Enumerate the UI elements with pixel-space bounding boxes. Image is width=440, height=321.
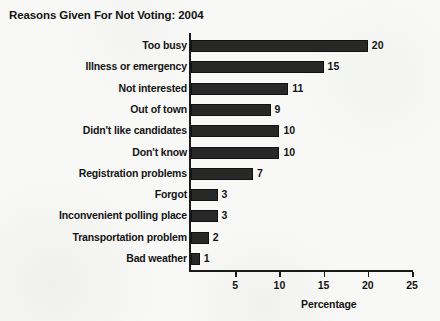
bar xyxy=(191,189,218,201)
bar-value-label: 15 xyxy=(328,60,340,72)
bar-value-label: 3 xyxy=(222,188,228,200)
category-label: Bad weather xyxy=(126,252,187,264)
bar-row: Illness or emergency15 xyxy=(0,58,440,80)
bar xyxy=(191,125,279,137)
x-tick-mark xyxy=(412,272,414,277)
category-label: Out of town xyxy=(130,103,187,115)
bar-value-label: 3 xyxy=(222,209,228,221)
plot-area: Too busy20Illness or emergency15Not inte… xyxy=(0,0,440,321)
x-tick-label: 10 xyxy=(274,279,286,291)
category-label: Not interested xyxy=(119,82,188,94)
bar-row: Transportation problem2 xyxy=(0,229,440,251)
bar-row: Not interested11 xyxy=(0,80,440,102)
y-axis-line xyxy=(189,33,191,271)
category-label: Don't know xyxy=(132,146,187,158)
bar-value-label: 7 xyxy=(257,167,263,179)
category-label: Inconvenient polling place xyxy=(59,209,187,221)
bar-row: Don't know10 xyxy=(0,144,440,166)
x-axis-line xyxy=(189,270,413,272)
category-label: Transportation problem xyxy=(72,231,187,243)
bar-value-label: 9 xyxy=(275,103,281,115)
bar xyxy=(191,83,288,95)
bar xyxy=(191,40,368,52)
x-tick-mark xyxy=(279,272,281,277)
bar xyxy=(191,168,253,180)
bar xyxy=(191,147,279,159)
bar-row: Too busy20 xyxy=(0,37,440,59)
bar-row: Registration problems7 xyxy=(0,165,440,187)
x-tick-label: 15 xyxy=(318,279,330,291)
category-label: Too busy xyxy=(142,39,187,51)
x-axis-title: Percentage xyxy=(301,298,357,310)
x-tick-mark xyxy=(324,272,326,277)
bar-value-label: 1 xyxy=(204,252,210,264)
category-label: Didn't like candidates xyxy=(83,124,187,136)
bar xyxy=(191,232,209,244)
category-label: Illness or emergency xyxy=(86,60,187,72)
bar-value-label: 11 xyxy=(292,82,303,94)
x-tick-label: 5 xyxy=(232,279,238,291)
bar xyxy=(191,61,324,73)
bar-row: Inconvenient polling place3 xyxy=(0,207,440,229)
x-tick-label: 25 xyxy=(406,279,418,291)
bar-value-label: 2 xyxy=(213,231,219,243)
bar-row: Forgot3 xyxy=(0,186,440,208)
category-label: Registration problems xyxy=(79,167,187,179)
x-tick-label: 20 xyxy=(362,279,374,291)
bar-value-label: 10 xyxy=(283,124,295,136)
bar-chart: Reasons Given For Not Voting: 2004 Too b… xyxy=(0,0,440,321)
bar xyxy=(191,253,200,265)
bar-value-label: 10 xyxy=(283,146,295,158)
bar xyxy=(191,210,218,222)
bar-row: Out of town9 xyxy=(0,101,440,123)
bar-row: Bad weather1 xyxy=(0,250,440,272)
bar xyxy=(191,104,271,116)
bar-value-label: 20 xyxy=(372,39,384,51)
bar-row: Didn't like candidates10 xyxy=(0,122,440,144)
x-tick-mark xyxy=(235,272,237,277)
category-label: Forgot xyxy=(155,188,187,200)
x-tick-mark xyxy=(368,272,370,277)
